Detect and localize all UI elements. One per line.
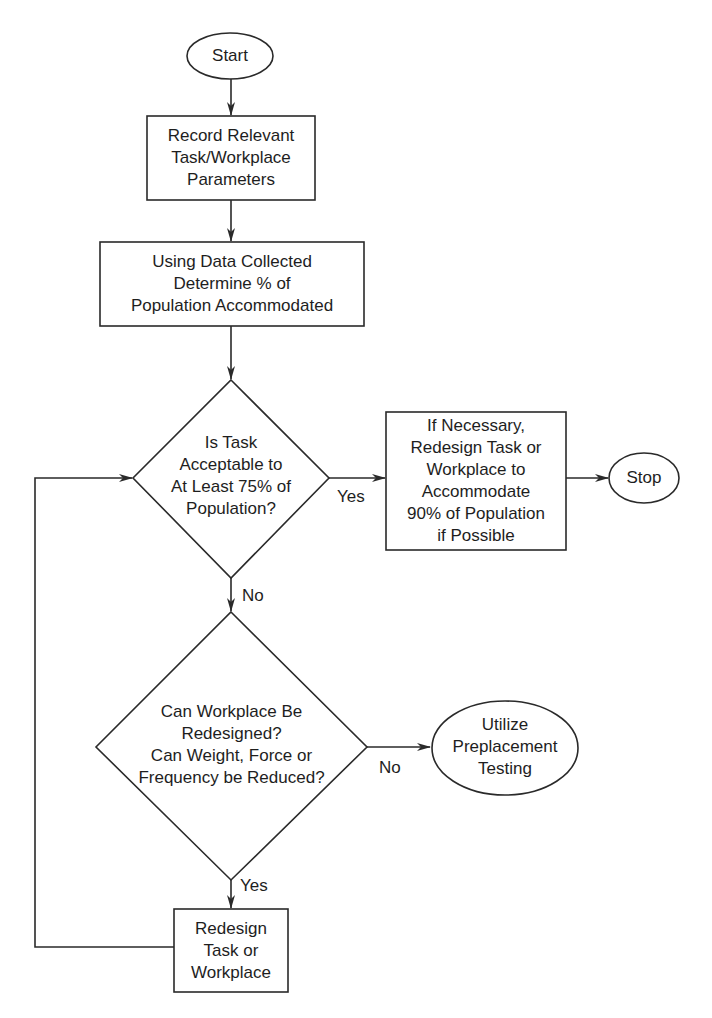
record-line-1: Record Relevant [147, 125, 315, 147]
determine-line-2: Determine % of [100, 273, 364, 295]
redesign90-line-5: 90% of Population [386, 503, 566, 525]
flowchart-canvas [0, 0, 712, 1018]
redesign-line-1: Redesign [174, 918, 288, 940]
preplacement-line-2: Preplacement [432, 736, 578, 758]
decision2-line-2: Redesigned? [96, 723, 367, 745]
redesign90-line-1: If Necessary, [386, 415, 566, 437]
stop-label: Stop [609, 467, 679, 489]
edge-label-d2-no: No [379, 758, 401, 778]
record-line-3: Parameters [147, 169, 315, 191]
decision1-line-3: At Least 75% of [133, 476, 329, 498]
redesign90-line-3: Workplace to [386, 459, 566, 481]
record-node: Record Relevant Task/Workplace Parameter… [147, 125, 315, 191]
redesign90-line-2: Redesign Task or [386, 437, 566, 459]
edge-label-d2-yes: Yes [240, 876, 268, 896]
decision1-line-1: Is Task [133, 432, 329, 454]
redesign-line-3: Workplace [174, 962, 288, 984]
redesign90-line-6: if Possible [386, 525, 566, 547]
determine-node: Using Data Collected Determine % of Popu… [100, 251, 364, 317]
decision2-node: Can Workplace Be Redesigned? Can Weight,… [96, 701, 367, 789]
record-line-2: Task/Workplace [147, 147, 315, 169]
redesign90-node: If Necessary, Redesign Task or Workplace… [386, 415, 566, 547]
preplacement-node: Utilize Preplacement Testing [432, 714, 578, 780]
redesign90-line-4: Accommodate [386, 481, 566, 503]
start-node: Start [187, 45, 273, 67]
start-label: Start [187, 45, 273, 67]
edge-label-d1-yes: Yes [337, 487, 365, 507]
edge-label-d1-no: No [242, 586, 264, 606]
determine-line-3: Population Accommodated [100, 295, 364, 317]
decision2-line-3: Can Weight, Force or [96, 745, 367, 767]
preplacement-line-3: Testing [432, 758, 578, 780]
determine-line-1: Using Data Collected [100, 251, 364, 273]
decision1-line-4: Population? [133, 498, 329, 520]
redesign-node: Redesign Task or Workplace [174, 918, 288, 984]
preplacement-line-1: Utilize [432, 714, 578, 736]
decision1-node: Is Task Acceptable to At Least 75% of Po… [133, 432, 329, 520]
decision2-line-1: Can Workplace Be [96, 701, 367, 723]
decision1-line-2: Acceptable to [133, 454, 329, 476]
decision2-line-4: Frequency be Reduced? [96, 767, 367, 789]
stop-node: Stop [609, 467, 679, 489]
redesign-line-2: Task or [174, 940, 288, 962]
